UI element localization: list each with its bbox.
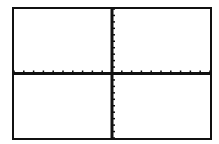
graph-screen bbox=[12, 7, 212, 140]
graph-plot bbox=[14, 9, 210, 138]
